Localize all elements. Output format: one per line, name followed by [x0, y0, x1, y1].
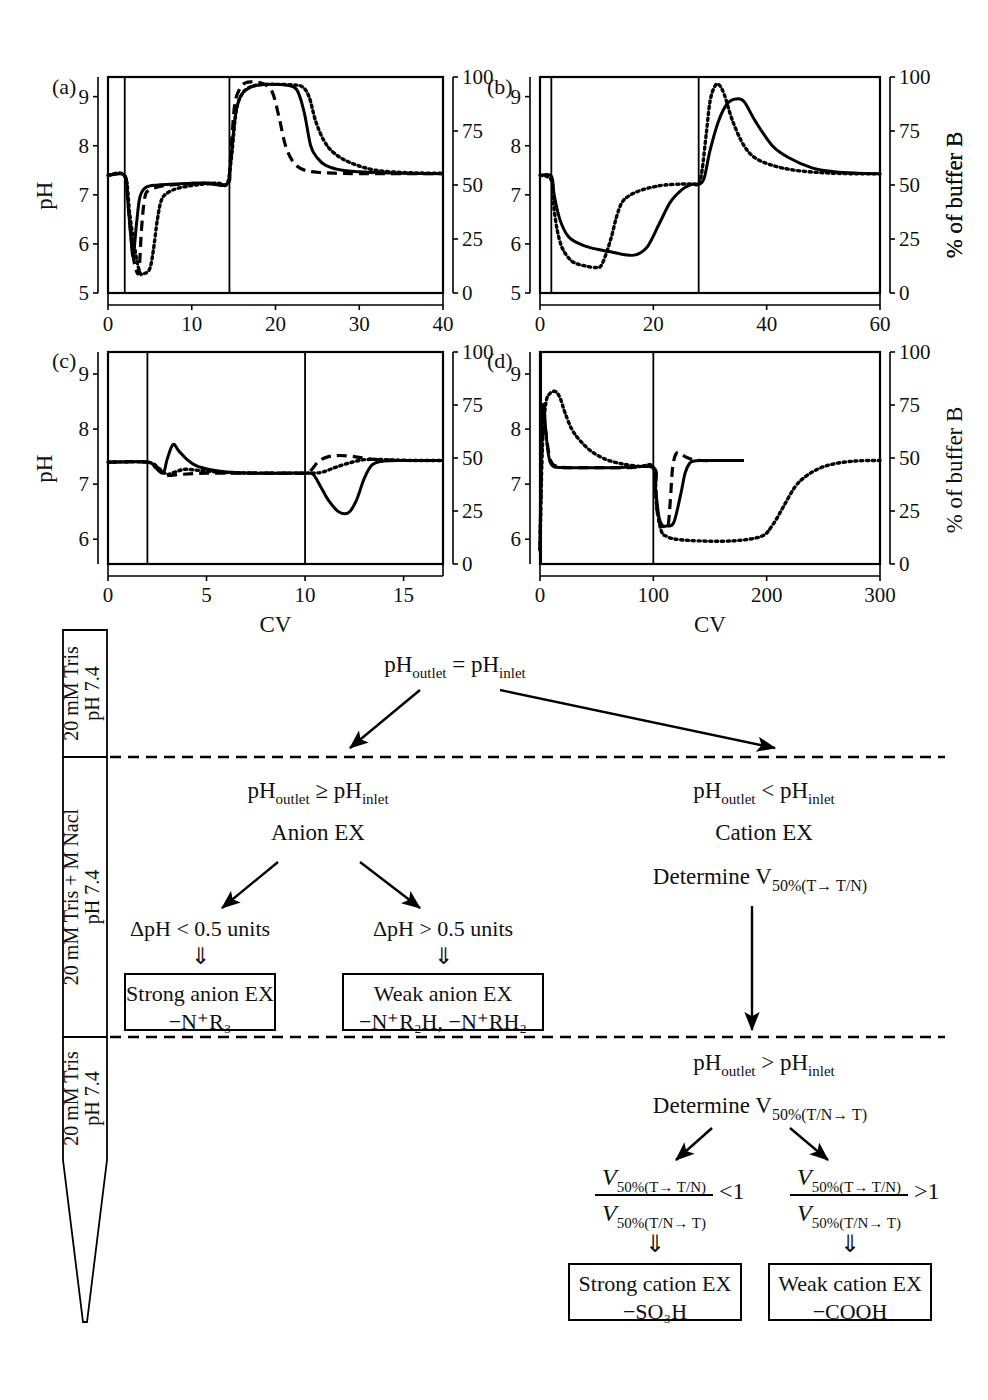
x-tick-label: 40	[433, 312, 454, 336]
weak-anion-result-line1: Weak anion EX	[374, 981, 513, 1006]
left-condition: pHoutlet ≥ pHinlet	[247, 778, 389, 807]
x-tick-label: 15	[393, 583, 414, 607]
series-buffer-B-gradient	[540, 352, 880, 564]
series-pH-dotted	[108, 84, 443, 274]
y-tick-label: 8	[79, 417, 90, 441]
y2-tick-label: 25	[899, 227, 920, 251]
x-tick-label: 20	[643, 312, 664, 336]
ratio-gt1-denominator: V50%(T/N→ T)	[797, 1200, 901, 1232]
chart-panel-c: 05101567890255075100(c)pHCV	[32, 340, 494, 637]
y2-tick-label: 25	[899, 499, 920, 523]
panel-label: (a)	[52, 74, 76, 99]
y2-tick-label: 50	[462, 446, 483, 470]
column-segment-top-line1: 20 mM Tris	[60, 646, 82, 741]
strong-cation-result-line2: −SO₃H	[623, 1299, 687, 1324]
strong-anion-result-line1: Strong anion EX	[126, 981, 274, 1006]
y-axis-title: pH	[32, 455, 57, 483]
y2-tick-label: 50	[899, 446, 920, 470]
x-tick-label: 300	[864, 583, 896, 607]
series-buffer-B-gradient	[108, 352, 443, 564]
panel-label: (d)	[487, 348, 513, 373]
series-pH-solid	[540, 99, 880, 256]
weak-cation-result-line2: −COOH	[813, 1299, 888, 1324]
x-tick-label: 10	[181, 312, 202, 336]
y-tick-label: 8	[511, 417, 522, 441]
right-determine-1: Determine V50%(T→ T/N)	[653, 864, 867, 895]
flowchart: pHoutlet = pHinletpHoutlet ≥ pHinletAnio…	[110, 652, 945, 1324]
right-condition: pHoutlet < pHinlet	[693, 778, 835, 807]
y2-tick-label: 25	[462, 227, 483, 251]
ratio-gt1-comparison: >1	[914, 1178, 940, 1204]
figure-container: 010203040567890255075100(a)pH% of buffer…	[0, 0, 988, 1400]
column-segment-middle-line2: pH 7.4	[81, 870, 104, 924]
x-tick-label: 5	[201, 583, 212, 607]
ratio-lt1-denominator: V50%(T/N→ T)	[602, 1200, 706, 1232]
y-tick-label: 7	[511, 183, 522, 207]
strong-anion-result-line2: −N⁺R₃	[169, 1009, 232, 1034]
right-determine-2: Determine V50%(T/N→ T)	[653, 1093, 867, 1124]
weak-anion-result-line2: −N⁺R₂H, −N⁺RH₂	[359, 1009, 527, 1034]
chart-panel-a: 010203040567890255075100(a)pH% of buffer…	[32, 65, 967, 336]
x-tick-label: 200	[751, 583, 783, 607]
x-tick-label: 30	[349, 312, 370, 336]
arrow-root-left	[350, 690, 420, 748]
right-condition-2: pHoutlet > pHinlet	[693, 1050, 835, 1079]
y-tick-label: 9	[79, 85, 90, 109]
y-tick-label: 6	[79, 232, 90, 256]
panel-label: (b)	[487, 74, 513, 99]
left-child-0-criterion: ΔpH < 0.5 units	[130, 916, 270, 941]
right-child-1-arrow: ⇓	[840, 1231, 860, 1257]
ratio-lt1-comparison: <1	[719, 1178, 745, 1204]
y2-tick-label: 75	[899, 393, 920, 417]
left-child-1-criterion: ΔpH > 0.5 units	[373, 916, 513, 941]
x-tick-label: 60	[870, 312, 891, 336]
series-pH-dashed	[540, 417, 744, 550]
y-tick-label: 6	[511, 232, 522, 256]
y-tick-label: 7	[79, 183, 90, 207]
y-tick-label: 5	[511, 281, 522, 305]
series-pH-solid	[108, 444, 443, 513]
y-tick-label: 8	[511, 134, 522, 158]
y-tick-label: 6	[79, 527, 90, 551]
left-branch-label: Anion EX	[271, 820, 365, 845]
x-tick-label: 40	[756, 312, 777, 336]
strong-cation-result-line1: Strong cation EX	[579, 1271, 732, 1296]
y2-axis-title: % of buffer B	[942, 132, 967, 259]
y2-tick-label: 100	[899, 65, 931, 89]
x-tick-label: 20	[265, 312, 286, 336]
panel-label: (c)	[52, 348, 76, 373]
series-pH-dotted	[540, 391, 880, 550]
x-axis-title: CV	[694, 612, 726, 637]
x-tick-label: 0	[535, 583, 546, 607]
weak-cation-result-line1: Weak cation EX	[778, 1271, 922, 1296]
y-axis-title: pH	[32, 182, 57, 210]
y2-tick-label: 50	[899, 173, 920, 197]
column-segment-middle-line1: 20 mM Tris + M Nacl	[60, 808, 82, 985]
y2-tick-label: 50	[462, 173, 483, 197]
arrow-left-right	[360, 862, 420, 908]
figure-svg: 010203040567890255075100(a)pH% of buffer…	[0, 0, 988, 1400]
y2-tick-label: 75	[899, 119, 920, 143]
y-tick-label: 6	[511, 527, 522, 551]
x-axis-title: CV	[260, 612, 292, 637]
x-tick-label: 0	[535, 312, 546, 336]
y2-tick-label: 75	[462, 393, 483, 417]
root-condition: pHoutlet = pHinlet	[384, 652, 526, 681]
column-segment-top-line2: pH 7.4	[81, 666, 104, 720]
arrow-right-child-0	[676, 1128, 712, 1160]
y2-tick-label: 0	[899, 552, 910, 576]
left-child-1-arrow: ⇓	[434, 944, 453, 969]
x-tick-label: 100	[638, 583, 670, 607]
y-tick-label: 7	[79, 472, 90, 496]
x-tick-label: 0	[103, 312, 114, 336]
left-child-0-arrow: ⇓	[191, 944, 210, 969]
chart-panel-d: 010020030067890255075100(d)CV% of buffer…	[487, 340, 967, 637]
column-segment-bottom-line1: 20 mM Tris	[60, 1051, 82, 1146]
arrow-left-left	[222, 862, 278, 908]
y2-tick-label: 0	[899, 281, 910, 305]
arrow-root-right	[500, 690, 775, 748]
x-tick-label: 10	[295, 583, 316, 607]
y-tick-label: 7	[511, 472, 522, 496]
y2-tick-label: 100	[899, 340, 931, 364]
plot-frame	[108, 352, 443, 564]
